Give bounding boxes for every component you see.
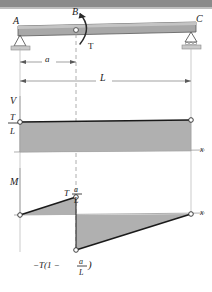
- moment-point-a: [18, 213, 23, 218]
- label-torque: T: [88, 41, 94, 51]
- label-point-b: B: [72, 6, 78, 17]
- shear-point-start: [18, 120, 23, 125]
- moment-negative-prefix: −T(1 −: [33, 260, 60, 270]
- moment-peak-denominator: L: [73, 196, 79, 205]
- moment-x-axis-label: x: [199, 208, 204, 217]
- moment-negative-suffix: ): [87, 258, 92, 271]
- moment-axis-label: M: [9, 176, 19, 187]
- moment-peak-numerator: a: [74, 185, 78, 194]
- label-point-c: C: [196, 13, 203, 24]
- shear-x-axis-label: x: [199, 145, 204, 154]
- support-a-base: [11, 46, 30, 50]
- moment-negative-denominator: L: [78, 268, 84, 277]
- dimension-label-a: a: [45, 54, 50, 64]
- shear-value-denominator: L: [9, 126, 15, 136]
- moment-negative-numerator: a: [79, 257, 83, 266]
- dimension-label-L: L: [99, 72, 106, 83]
- point-b-marker: [74, 28, 79, 33]
- page-edge-band: [0, 0, 212, 8]
- shear-point-end: [189, 118, 194, 123]
- shear-area: [20, 120, 191, 152]
- figure-svg: A B C T a L V T: [0, 0, 212, 292]
- support-c-base: [182, 45, 201, 49]
- moment-point-b-negative: [74, 248, 79, 253]
- label-point-a: A: [12, 15, 20, 26]
- moment-point-c: [189, 212, 194, 217]
- beam-shear-moment-figure: A B C T a L V T: [0, 0, 212, 292]
- page-edge-band-shadow: [0, 7, 212, 9]
